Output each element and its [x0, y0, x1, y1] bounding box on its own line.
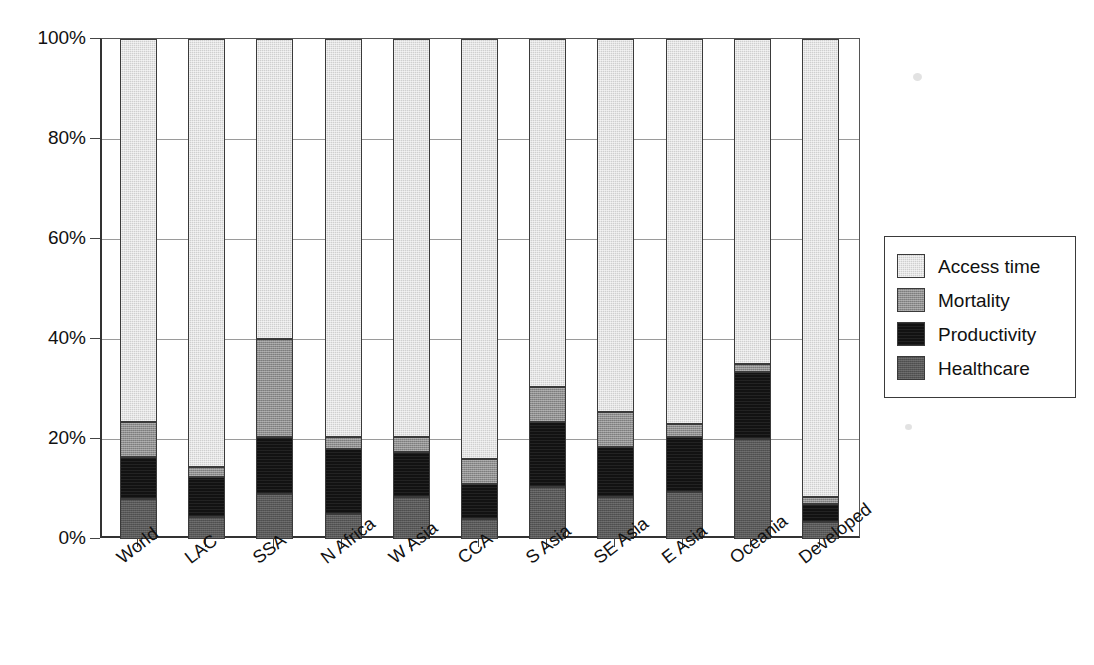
plot-area: [100, 38, 860, 538]
bar-segment-access: [120, 39, 157, 422]
legend: Access timeMortalityProductivityHealthca…: [884, 236, 1076, 398]
legend-swatch-productivity: [897, 322, 925, 346]
legend-item-productivity: Productivity: [897, 317, 1065, 351]
bar-cca: [461, 39, 498, 536]
bars-layer: [102, 39, 859, 536]
bar-segment-access: [529, 39, 566, 387]
y-tick-mark: [90, 438, 100, 439]
y-tick-mark: [90, 138, 100, 139]
bar-segment-mortality: [325, 437, 362, 450]
bar-segment-productivity: [461, 484, 498, 519]
bar-segment-access: [461, 39, 498, 459]
y-tick-mark: [90, 238, 100, 239]
bar-segment-productivity: [529, 422, 566, 487]
y-tick-mark: [90, 538, 100, 539]
bar-s-asia: [529, 39, 566, 536]
bar-segment-mortality: [666, 424, 703, 437]
bar-segment-productivity: [393, 452, 430, 497]
y-tick-label: 20%: [8, 428, 86, 447]
bar-segment-productivity: [802, 504, 839, 522]
bar-e-asia: [666, 39, 703, 536]
legend-item-mortality: Mortality: [897, 283, 1065, 317]
y-tick-mark: [90, 38, 100, 39]
legend-label: Productivity: [938, 324, 1036, 345]
bar-segment-access: [393, 39, 430, 437]
stacked-bar-chart: 100%80%60%40%20%0% WorldLACSSAN AfricaW …: [0, 0, 1094, 665]
bar-segment-productivity: [188, 477, 225, 517]
bar-segment-mortality: [802, 497, 839, 505]
bar-segment-mortality: [734, 364, 771, 372]
bar-n-africa: [325, 39, 362, 536]
y-tick-label: 0%: [8, 528, 86, 547]
bar-segment-access: [734, 39, 771, 364]
bar-segment-access: [188, 39, 225, 467]
legend-swatch-mortality: [897, 288, 925, 312]
bar-segment-mortality: [188, 467, 225, 477]
bar-segment-productivity: [666, 437, 703, 492]
bar-developed: [802, 39, 839, 536]
bar-se-asia: [597, 39, 634, 536]
bar-lac: [188, 39, 225, 536]
bar-segment-mortality: [256, 339, 293, 437]
bar-segment-access: [666, 39, 703, 424]
bar-segment-access: [802, 39, 839, 497]
bar-world: [120, 39, 157, 536]
legend-label: Mortality: [938, 290, 1010, 311]
bar-segment-productivity: [734, 372, 771, 440]
bar-segment-mortality: [393, 437, 430, 452]
y-tick-label: 100%: [8, 28, 86, 47]
legend-swatch-access: [897, 254, 925, 278]
bar-w-asia: [393, 39, 430, 536]
bar-segment-productivity: [120, 457, 157, 500]
bar-segment-access: [325, 39, 362, 437]
bar-segment-mortality: [461, 459, 498, 484]
bar-segment-mortality: [597, 412, 634, 447]
legend-item-access: Access time: [897, 249, 1065, 283]
bar-ssa: [256, 39, 293, 536]
bar-oceania: [734, 39, 771, 536]
bar-segment-productivity: [325, 449, 362, 514]
bar-segment-mortality: [120, 422, 157, 457]
legend-label: Access time: [938, 256, 1040, 277]
y-tick-label: 60%: [8, 228, 86, 247]
legend-swatch-healthcare: [897, 356, 925, 380]
bar-segment-productivity: [597, 447, 634, 497]
legend-item-healthcare: Healthcare: [897, 351, 1065, 385]
bar-segment-access: [256, 39, 293, 339]
y-tick-label: 40%: [8, 328, 86, 347]
y-tick-label: 80%: [8, 128, 86, 147]
bar-segment-mortality: [529, 387, 566, 422]
bar-segment-access: [597, 39, 634, 412]
bar-segment-productivity: [256, 437, 293, 495]
y-tick-mark: [90, 338, 100, 339]
legend-label: Healthcare: [938, 358, 1030, 379]
